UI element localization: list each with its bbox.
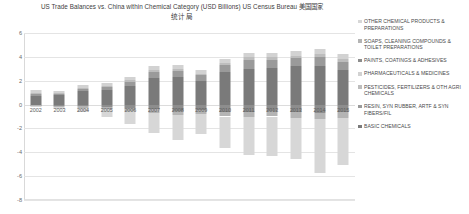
bar-segment — [149, 78, 160, 105]
bar-segment — [149, 72, 160, 77]
y-axis-tick-6: 6 — [4, 30, 22, 36]
bar-segment — [54, 94, 65, 95]
stacked-bar[interactable] — [54, 33, 65, 200]
bar-group-2013[interactable]: 2013 — [284, 33, 308, 200]
stacked-bar[interactable] — [338, 33, 349, 200]
stacked-bar[interactable] — [290, 33, 301, 200]
stacked-bar[interactable] — [30, 33, 41, 200]
y-axis: 6420-2-4-6-8 — [0, 33, 22, 200]
bar-segment — [243, 60, 254, 68]
bar-segment — [314, 66, 325, 104]
stacked-bar[interactable] — [149, 33, 160, 200]
legend-item-label: OTHER CHEMICAL PRODUCTS & PREPARATIONS — [364, 18, 466, 31]
stacked-bar[interactable] — [125, 33, 136, 200]
bar-segment — [290, 56, 301, 58]
gridline--8 — [24, 200, 355, 201]
bar-segment — [125, 80, 136, 82]
bar-group-2009[interactable]: 2009 — [190, 33, 214, 200]
x-axis-label-2013: 2013 — [290, 107, 302, 113]
legend-swatch-icon — [358, 125, 362, 129]
bar-group-2010[interactable]: 2010 — [213, 33, 237, 200]
legend-item[interactable]: SOAPS, CLEANING COMPOUNDS & TOILET PREPA… — [358, 38, 466, 51]
x-axis-label-2011: 2011 — [243, 107, 255, 113]
stacked-bar[interactable] — [78, 33, 89, 200]
bar-segment — [78, 88, 89, 89]
bar-group-2005[interactable]: 2005 — [95, 33, 119, 200]
stacked-bar[interactable] — [267, 33, 278, 200]
bar-segment — [267, 117, 278, 156]
bar-segment — [30, 93, 41, 94]
x-axis-label-2007: 2007 — [148, 107, 160, 113]
bar-segment — [290, 118, 301, 160]
bar-segment — [219, 72, 230, 104]
legend-item-label: BASIC CHEMICALS — [364, 123, 411, 130]
x-axis-label-2003: 2003 — [53, 107, 65, 113]
legend-swatch-icon — [358, 59, 362, 63]
bar-group-2014[interactable]: 2014 — [308, 33, 332, 200]
stacked-bar[interactable] — [172, 33, 183, 200]
bar-segment — [267, 60, 278, 68]
bar-segment — [243, 117, 254, 155]
bar-group-2004[interactable]: 2004 — [71, 33, 95, 200]
stacked-bar[interactable] — [196, 33, 207, 200]
bar-segment — [172, 115, 183, 140]
stacked-bar[interactable] — [219, 33, 230, 200]
bar-segment — [290, 58, 301, 66]
bar-group-2008[interactable]: 2008 — [166, 33, 190, 200]
chart-container: US Trade Balances vs. China within Chemi… — [0, 0, 469, 214]
bar-segment — [125, 77, 136, 81]
bar-segment — [196, 75, 207, 80]
x-axis-label-2004: 2004 — [77, 107, 89, 113]
bar-segment — [243, 57, 254, 60]
bar-segment — [172, 69, 183, 71]
bar-segment — [30, 90, 41, 92]
plot-area: 2002200320042005200620072008200920102011… — [24, 33, 355, 200]
bar-group-2003[interactable]: 2003 — [48, 33, 72, 200]
bar-segment — [314, 113, 325, 120]
bar-segment — [149, 70, 160, 72]
legend-item[interactable]: PESTICIDES, FERTILIZERS & OTH AGRI CHEMI… — [358, 84, 466, 97]
bar-group-2007[interactable]: 2007 — [142, 33, 166, 200]
legend-swatch-icon — [358, 39, 362, 43]
bar-segment — [125, 82, 136, 86]
bar-segment — [338, 54, 349, 59]
y-axis-tick--2: -2 — [4, 125, 22, 131]
stacked-bar[interactable] — [314, 33, 325, 200]
bar-segment — [101, 83, 112, 86]
bar-segment — [149, 113, 160, 133]
y-axis-tick-2: 2 — [4, 78, 22, 84]
bar-segment — [338, 59, 349, 61]
legend-item[interactable]: OTHER CHEMICAL PRODUCTS & PREPARATIONS — [358, 18, 466, 31]
y-axis-tick--8: -8 — [4, 197, 22, 203]
x-axis-label-2015: 2015 — [337, 107, 349, 113]
bar-segment — [78, 91, 89, 104]
stacked-bar[interactable] — [101, 33, 112, 200]
bar-segment — [30, 94, 41, 96]
bar-segment — [54, 91, 65, 93]
x-axis-label-2006: 2006 — [124, 107, 136, 113]
legend-item[interactable]: PHARMACEUTICALS & MEDICINES — [358, 70, 466, 77]
chart-title: US Trade Balances vs. China within Chemi… — [8, 2, 356, 21]
bar-group-2006[interactable]: 2006 — [119, 33, 143, 200]
y-axis-tick-0: 0 — [4, 102, 22, 108]
bar-segment — [172, 71, 183, 77]
bar-segment — [54, 95, 65, 105]
bar-segment — [196, 81, 207, 105]
x-axis-label-2010: 2010 — [219, 107, 231, 113]
bar-group-2011[interactable]: 2011 — [237, 33, 261, 200]
bar-segment — [267, 68, 278, 105]
stacked-bar[interactable] — [243, 33, 254, 200]
legend-item[interactable]: BASIC CHEMICALS — [358, 123, 466, 130]
x-axis-label-2014: 2014 — [314, 107, 326, 113]
bar-segment — [30, 96, 41, 105]
bar-segment — [338, 62, 349, 70]
bar-group-2012[interactable]: 2012 — [260, 33, 284, 200]
legend-item[interactable]: RESIN, SYN RUBBER, ARTF & SYN FIBERS/FIL — [358, 103, 466, 116]
bar-segment — [101, 87, 112, 90]
bar-group-2015[interactable]: 2015 — [331, 33, 355, 200]
chart-legend: OTHER CHEMICAL PRODUCTS & PREPARATIONSSO… — [358, 18, 466, 136]
legend-item[interactable]: PAINTS, COATINGS & ADHESIVES — [358, 57, 466, 64]
bar-segment — [78, 85, 89, 87]
bar-group-2002[interactable]: 2002 — [24, 33, 48, 200]
bar-segment — [101, 86, 112, 87]
